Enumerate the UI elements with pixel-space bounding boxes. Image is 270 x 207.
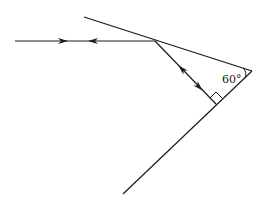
angle-arc	[243, 68, 246, 78]
upper-mirror-line	[84, 17, 252, 71]
lower-mirror-line	[123, 71, 252, 194]
diagram-canvas: 60°	[0, 0, 270, 207]
ray-diagram	[0, 0, 270, 207]
angle-label: 60°	[222, 74, 242, 85]
diagonal-ray	[155, 41, 216, 104]
right-angle-marker	[210, 92, 222, 98]
